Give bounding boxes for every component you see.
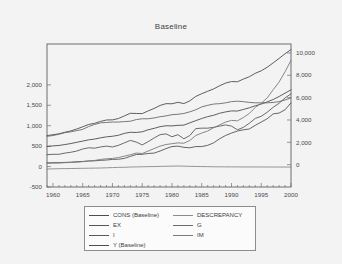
- series-lines: [47, 50, 291, 169]
- y-left-tick-label: -500: [30, 183, 43, 190]
- y-axis-right-ticks: [287, 53, 291, 165]
- legend-item-label: EX: [113, 221, 121, 229]
- series-line: [47, 103, 291, 163]
- x-tick-label: 1960: [46, 191, 60, 198]
- y-right-tick-label: 0: [296, 161, 300, 168]
- legend-line-swatch: [173, 215, 193, 216]
- y-right-tick-label: 4,000: [296, 116, 312, 123]
- series-line: [47, 50, 291, 136]
- x-tick-label: 1975: [135, 191, 149, 198]
- x-axis-tick-labels: 196019651970197519801985199019952000: [46, 191, 298, 198]
- legend-item-label: IM: [197, 231, 204, 239]
- x-tick-label: 2000: [284, 191, 298, 198]
- legend-grid: CONS (Baseline)DESCREPANCYEXGIIMY (Basel…: [85, 207, 255, 250]
- y-left-tick-label: 1,000: [27, 122, 43, 129]
- x-tick-label: 1995: [254, 191, 268, 198]
- legend-item-label: CONS (Baseline): [113, 211, 159, 219]
- y-left-tick-label: 1,500: [27, 101, 43, 108]
- legend-line-swatch: [89, 245, 109, 246]
- series-line: [47, 90, 291, 147]
- chart-window: Baseline 1960196519701975198019851990199…: [0, 0, 342, 264]
- legend-item[interactable]: I: [89, 230, 115, 240]
- x-axis-ticks: [47, 183, 291, 187]
- y-right-tick-label: 6,000: [296, 94, 312, 101]
- x-tick-label: 1985: [195, 191, 209, 198]
- legend-line-swatch: [89, 215, 109, 216]
- legend-item-label: DESCREPANCY: [197, 211, 242, 219]
- y-left-tick-label: 2,000: [27, 81, 43, 88]
- y-right-tick-label: 2,000: [296, 139, 312, 146]
- legend-line-swatch: [89, 225, 109, 226]
- legend-item[interactable]: EX: [89, 220, 121, 230]
- legend-item-label: G: [197, 221, 202, 229]
- series-line: [47, 166, 291, 169]
- x-tick-label: 1990: [225, 191, 239, 198]
- y-left-tick-label: 500: [32, 142, 43, 149]
- legend-item[interactable]: G: [173, 220, 202, 230]
- y-right-tick-label: 8,000: [296, 71, 312, 78]
- y-right-tick-label: 10,000: [296, 49, 315, 56]
- legend-item[interactable]: IM: [173, 230, 204, 240]
- x-tick-label: 1970: [106, 191, 120, 198]
- y-left-tick-label: 0: [39, 163, 43, 170]
- x-tick-label: 1965: [76, 191, 90, 198]
- chart-card: Baseline 1960196519701975198019851990199…: [0, 0, 342, 264]
- x-tick-label: 1980: [165, 191, 179, 198]
- legend-item[interactable]: Y (Baseline): [89, 240, 146, 250]
- y-axis-right-labels: 10,0008,0006,0004,0002,0000: [296, 49, 315, 168]
- legend-line-swatch: [173, 225, 193, 226]
- legend-line-swatch: [89, 235, 109, 236]
- legend-item-label: I: [113, 231, 115, 239]
- y-axis-left-labels: 2,0001,5001,0005000-500: [27, 81, 43, 190]
- legend-item[interactable]: DESCREPANCY: [173, 210, 242, 220]
- legend-item[interactable]: CONS (Baseline): [89, 210, 159, 220]
- chart-legend: CONS (Baseline)DESCREPANCYEXGIIMY (Basel…: [84, 206, 256, 251]
- legend-item-label: Y (Baseline): [113, 241, 146, 249]
- legend-line-swatch: [173, 235, 193, 236]
